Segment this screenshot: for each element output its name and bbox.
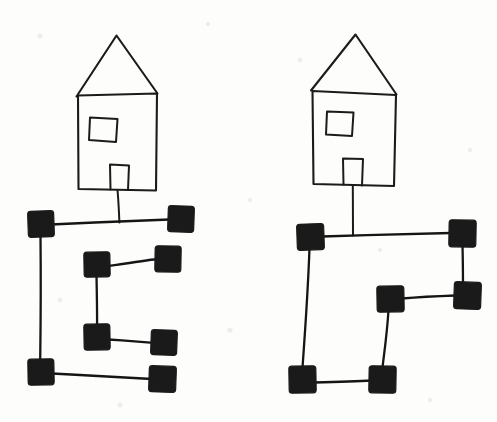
right-graph	[289, 220, 482, 393]
edge-top-horizontal	[322, 233, 451, 237]
node-top-left[interactable]	[28, 211, 55, 238]
node-bottom-left[interactable]	[28, 359, 54, 385]
left-figure	[28, 36, 195, 393]
edge-bottom-horizontal	[52, 374, 152, 380]
left-graph	[28, 206, 195, 393]
left-house-body	[78, 94, 157, 191]
left-house-stem	[118, 190, 120, 223]
drawing-canvas	[0, 0, 497, 422]
node-upper-right[interactable]	[155, 246, 181, 272]
edge-top-horizontal	[51, 220, 170, 225]
node-mid-right[interactable]	[454, 282, 482, 310]
right-graph-nodes	[289, 220, 482, 393]
edge-mid-down-vertical	[383, 310, 389, 368]
node-upper-mid[interactable]	[84, 252, 110, 277]
edge-upper-horizontal	[108, 259, 158, 266]
node-bottom-right[interactable]	[369, 366, 396, 393]
left-house-door	[110, 165, 129, 191]
node-mid-left[interactable]	[377, 286, 404, 312]
left-house	[77, 36, 158, 223]
edge-bottom-horizontal	[314, 381, 372, 383]
right-house	[311, 35, 397, 236]
right-house-window	[326, 112, 354, 137]
right-house-body	[313, 91, 397, 186]
left-house-window	[89, 118, 118, 143]
edge-mid-horizontal	[402, 296, 456, 299]
node-top-right[interactable]	[168, 206, 195, 233]
edge-left-vertical	[303, 248, 310, 368]
node-lower-mid[interactable]	[84, 324, 110, 350]
left-house-roof	[77, 36, 158, 97]
edge-right-vertical	[463, 245, 464, 284]
node-top-right[interactable]	[449, 220, 476, 247]
edge-lower-horizontal	[109, 340, 154, 343]
node-bottom-left[interactable]	[289, 366, 316, 393]
right-house-roof	[311, 35, 397, 95]
node-top-left[interactable]	[297, 224, 325, 251]
node-bottom-right[interactable]	[149, 366, 177, 393]
scene-svg	[0, 0, 497, 422]
right-house-door	[343, 159, 363, 186]
node-lower-right[interactable]	[151, 330, 178, 356]
left-graph-nodes	[28, 206, 195, 393]
right-figure	[289, 35, 482, 394]
